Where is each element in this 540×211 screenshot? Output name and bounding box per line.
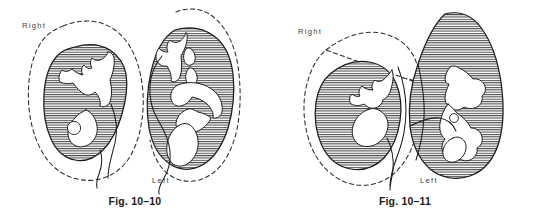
parenchyma-hatch-right-10-10 bbox=[30, 30, 150, 180]
kidney-left-10-10: Left bbox=[140, 9, 250, 194]
kidney-right-10-11: Right bbox=[298, 27, 419, 190]
kidney-left-10-11: Left bbox=[405, 5, 510, 185]
kidney-right-10-10: Right bbox=[22, 21, 150, 188]
figure-caption-10-10: Fig. 10–10 bbox=[0, 195, 270, 207]
side-label-right-10-11: Right bbox=[298, 27, 322, 36]
figure-caption-10-11: Fig. 10–11 bbox=[270, 195, 540, 207]
kidney-diagram-10-10: Right bbox=[0, 0, 270, 196]
figure-panel-10-10: Right bbox=[0, 0, 270, 211]
figure-plate: Right bbox=[0, 0, 540, 211]
kidney-diagram-10-11: Right Le bbox=[270, 0, 540, 196]
side-label-left-10-11: Left bbox=[420, 176, 438, 185]
side-label-right-10-10: Right bbox=[22, 21, 46, 30]
calculus-right-10-10 bbox=[67, 121, 80, 134]
calculus-left-10-11 bbox=[450, 114, 459, 123]
side-label-left-10-10: Left bbox=[152, 176, 170, 185]
figure-panel-10-11: Right Le bbox=[270, 0, 540, 211]
renal-vessel-right-10-10 bbox=[97, 150, 102, 188]
